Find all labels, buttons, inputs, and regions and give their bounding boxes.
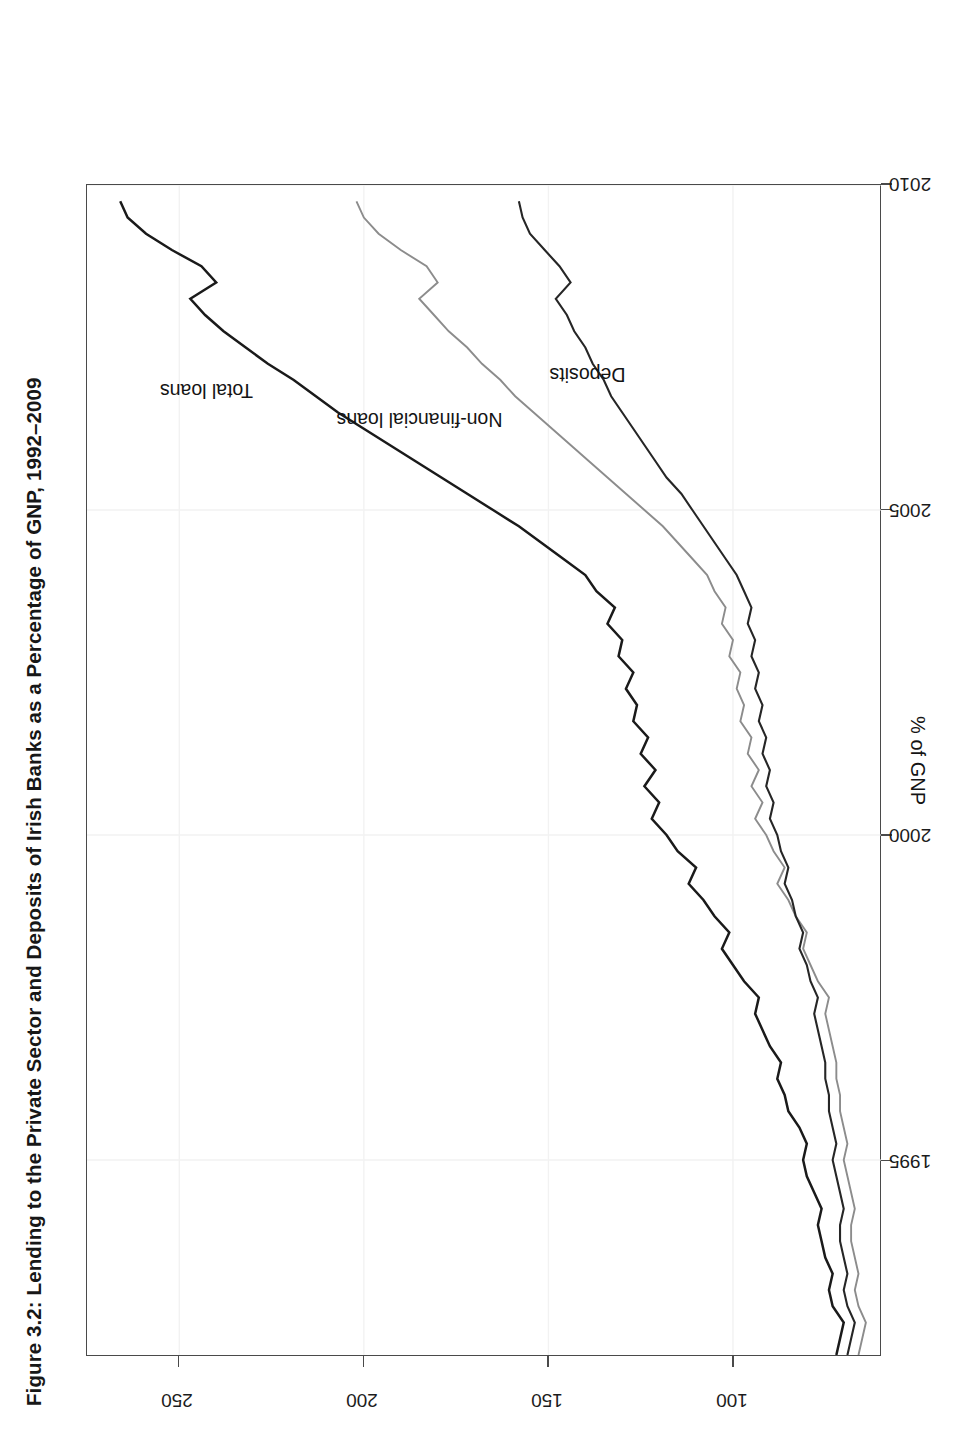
y-axis-tick xyxy=(732,1356,734,1367)
series-line-total-loans xyxy=(120,201,844,1355)
y-axis-tick-label: 200 xyxy=(340,1389,384,1411)
figure-title: Figure 3.2: Lending to the Private Secto… xyxy=(22,378,46,1406)
y-axis-tick xyxy=(178,1356,180,1367)
plot-area xyxy=(86,184,881,1356)
series-label-deposits: Deposits xyxy=(550,363,626,386)
line-chart-canvas xyxy=(87,185,881,1355)
y-axis-tick-label: 150 xyxy=(525,1389,569,1411)
y-axis-tick-label: 100 xyxy=(710,1389,754,1411)
x-axis-tick-label: 1995 xyxy=(886,1150,934,1172)
x-axis-tick-label: 2005 xyxy=(886,499,934,521)
rotated-page-stage: Figure 3.2: Lending to the Private Secto… xyxy=(0,0,962,1442)
y-axis-tick xyxy=(547,1356,549,1367)
x-axis-tick-label: 2010 xyxy=(886,173,934,195)
y-axis-tick-label: 250 xyxy=(155,1389,199,1411)
y-axis-tick xyxy=(363,1356,365,1367)
series-label-non-financial-loans: Non-financial loans xyxy=(337,408,503,431)
y-axis-title: % of GNP xyxy=(906,716,929,805)
x-axis-tick-label: 2000 xyxy=(886,824,934,846)
series-label-total-loans: Total loans xyxy=(160,379,253,402)
